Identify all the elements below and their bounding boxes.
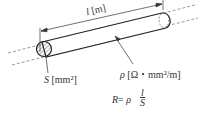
formula-fraction: l S (140, 88, 145, 107)
resistivity-label: ρ [Ω・mm²/m] (120, 66, 181, 81)
resistivity-leader (115, 36, 133, 64)
formula-denominator: S (140, 98, 145, 107)
resistivity-unit: [Ω・mm²/m] (127, 69, 180, 80)
resistance-formula: R= ρ (112, 94, 131, 105)
formula-equals: = (118, 94, 124, 105)
cross-section-area (37, 42, 52, 57)
area-leader (46, 57, 48, 73)
conductor-cylinder (42, 13, 170, 57)
area-label: S [mm²] (44, 74, 77, 85)
conductor-diagram (0, 0, 201, 116)
area-symbol: S (44, 74, 49, 85)
formula-rho: ρ (126, 94, 131, 105)
resistivity-symbol: ρ (120, 69, 125, 80)
area-unit: [mm²] (52, 74, 77, 85)
